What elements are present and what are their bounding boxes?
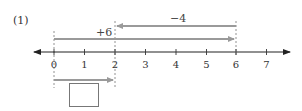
tick-label-6: 6 xyxy=(233,59,239,70)
tick-label-5: 5 xyxy=(203,59,209,70)
dashed-guides xyxy=(54,21,236,88)
plus-arrow-label: +6 xyxy=(96,26,112,39)
tick-label-7: 7 xyxy=(263,59,269,70)
problem-label: (1) xyxy=(13,14,29,27)
tick-labels: 01234567 xyxy=(51,59,270,70)
answer-box[interactable] xyxy=(70,84,99,107)
tick-label-0: 0 xyxy=(51,59,57,70)
number-line-diagram: (1) +6 −4 01234567 xyxy=(0,0,302,111)
tick-label-1: 1 xyxy=(81,59,87,70)
minus-arrow-label: −4 xyxy=(170,12,186,25)
tick-label-4: 4 xyxy=(173,59,179,70)
tick-label-3: 3 xyxy=(142,59,148,70)
tick-label-2: 2 xyxy=(112,59,118,70)
